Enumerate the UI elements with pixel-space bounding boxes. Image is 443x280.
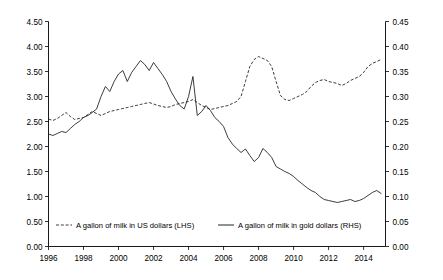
y-tick-label-right: 0.30 xyxy=(393,93,409,102)
x-tick-label: 1996 xyxy=(39,254,58,263)
y-tick-label-left: 1.50 xyxy=(27,168,43,177)
y-axis-left: 0.000.501.001.502.002.503.003.504.004.50 xyxy=(27,18,49,252)
x-tick-label: 2010 xyxy=(284,254,303,263)
y-axis-right: 0.000.050.100.150.200.250.300.350.400.45 xyxy=(386,18,409,252)
x-tick-label: 1998 xyxy=(74,254,93,263)
y-tick-label-left: 2.00 xyxy=(27,143,43,152)
y-tick-label-left: 0.50 xyxy=(27,218,43,227)
y-tick-label-right: 0.40 xyxy=(393,43,409,52)
x-tick-label: 2012 xyxy=(319,254,338,263)
y-tick-label-right: 0.05 xyxy=(393,218,409,227)
y-tick-label-left: 3.50 xyxy=(27,68,43,77)
y-tick-label-left: 3.00 xyxy=(27,93,43,102)
chart-legend: A gallon of milk in US dollars (LHS)A ga… xyxy=(50,217,385,235)
y-tick-label-right: 0.15 xyxy=(393,168,409,177)
x-axis: 1996199820002002200420062008201020122014 xyxy=(39,247,373,263)
x-tick-label: 2000 xyxy=(109,254,128,263)
y-tick-label-left: 1.00 xyxy=(27,193,43,202)
legend-label-gold: A gallon of milk in gold dollars (RHS) xyxy=(238,221,362,230)
y-tick-label-left: 4.50 xyxy=(27,18,43,27)
y-tick-label-right: 0.00 xyxy=(393,243,409,252)
series-line-usd xyxy=(49,57,382,121)
milk-price-line-chart: 0.000.501.001.502.002.503.003.504.004.50… xyxy=(0,0,443,280)
y-tick-label-right: 0.25 xyxy=(393,118,409,127)
y-tick-label-right: 0.20 xyxy=(393,143,409,152)
x-tick-label: 2014 xyxy=(355,254,374,263)
y-tick-label-left: 0.00 xyxy=(27,243,43,252)
x-tick-label: 2004 xyxy=(179,254,198,263)
legend-label-usd: A gallon of milk in US dollars (LHS) xyxy=(76,221,195,230)
x-tick-label: 2008 xyxy=(249,254,268,263)
y-tick-label-right: 0.10 xyxy=(393,193,409,202)
y-tick-label-left: 4.00 xyxy=(27,43,43,52)
chart-container: 0.000.501.001.502.002.503.003.504.004.50… xyxy=(0,0,443,280)
x-tick-label: 2006 xyxy=(214,254,233,263)
y-tick-label-left: 2.50 xyxy=(27,118,43,127)
x-tick-label: 2002 xyxy=(144,254,163,263)
y-tick-label-right: 0.35 xyxy=(393,68,409,77)
y-tick-label-right: 0.45 xyxy=(393,18,409,27)
